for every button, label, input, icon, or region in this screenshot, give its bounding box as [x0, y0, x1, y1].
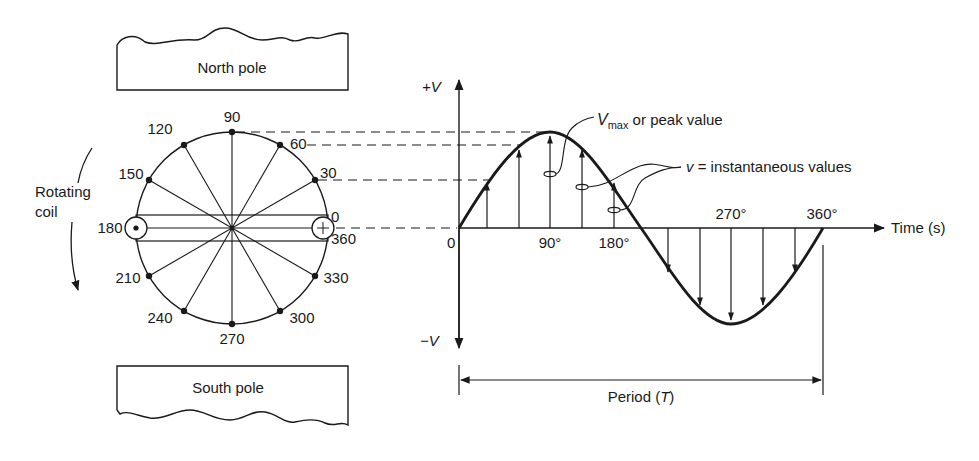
y-neg-label: −V [420, 332, 441, 349]
angle-270: 270 [219, 330, 244, 347]
x-tick-360: 360° [806, 205, 837, 222]
x-tick-270: 270° [715, 205, 746, 222]
coil-label: coil [35, 203, 58, 220]
angle-150: 150 [118, 165, 143, 182]
vmax-label: Vmax or peak value [597, 111, 723, 131]
angle-90: 90 [224, 108, 241, 125]
angle-60: 60 [290, 135, 307, 152]
south-pole-label: South pole [192, 379, 264, 396]
x-tick-90: 90° [539, 234, 562, 251]
rotation-arrow-icon [71, 222, 78, 290]
rotating-coil-annotation: Rotating coil [35, 148, 92, 290]
south-pole-magnet: South pole [117, 366, 348, 425]
angle-330: 330 [323, 269, 348, 286]
waveform-graph: +V −V 0 90° 180° 270° 360° Time (s) [420, 78, 945, 405]
origin-label: 0 [447, 234, 455, 251]
angle-180: 180 [97, 219, 122, 236]
ac-generator-diagram: North pole South pole Rotating coil [0, 0, 979, 461]
angle-0: 0 [331, 208, 339, 225]
x-axis-label: Time (s) [891, 219, 945, 236]
period-label: Period (T) [608, 388, 675, 405]
angle-30: 30 [320, 164, 337, 181]
angle-300: 300 [289, 309, 314, 326]
x-tick-180: 180° [598, 234, 629, 251]
instantaneous-values-label: v = instantaneous values [686, 158, 852, 175]
y-pos-label: +V [422, 78, 443, 95]
coil-circle: 0 30 60 90 120 150 180 210 240 270 300 3… [97, 108, 356, 347]
angle-210: 210 [115, 269, 140, 286]
angle-360: 360 [331, 230, 356, 247]
rotation-arc-top [78, 148, 92, 183]
rotating-label: Rotating [35, 183, 91, 200]
angle-120: 120 [147, 120, 172, 137]
north-pole-magnet: North pole [117, 28, 348, 90]
north-pole-label: North pole [197, 59, 266, 76]
angle-240: 240 [147, 309, 172, 326]
